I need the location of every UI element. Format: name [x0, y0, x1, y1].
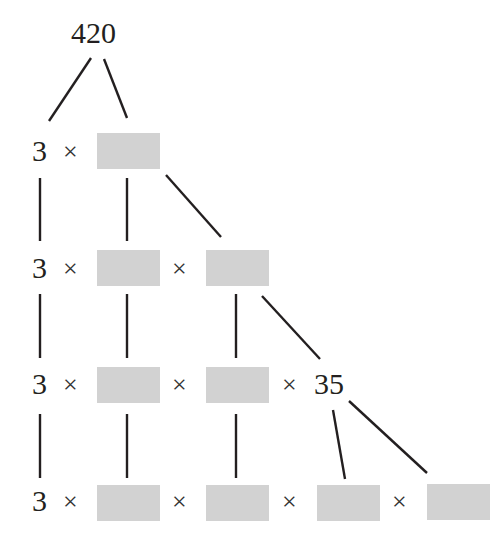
times-sign: ×	[63, 139, 78, 165]
root-number: 420	[71, 18, 116, 48]
branch-420-right	[104, 59, 127, 118]
branch-r1-box-right	[166, 175, 221, 237]
blank-answer-box[interactable]	[97, 485, 160, 521]
times-sign: ×	[172, 489, 187, 515]
factor-tree-diagram: 420 3 × 3 × × 3 × × × 35 3 × × × ×	[0, 0, 504, 546]
branch-35-left	[333, 410, 345, 479]
times-sign: ×	[282, 372, 297, 398]
times-sign: ×	[63, 372, 78, 398]
blank-answer-box[interactable]	[317, 485, 380, 521]
times-sign: ×	[392, 489, 407, 515]
factor-3: 3	[32, 136, 47, 166]
blank-answer-box[interactable]	[97, 367, 160, 403]
blank-answer-box[interactable]	[97, 133, 160, 169]
times-sign: ×	[282, 489, 297, 515]
branch-420-left	[49, 58, 91, 121]
intermediate-35: 35	[314, 369, 344, 399]
blank-answer-box[interactable]	[206, 250, 269, 286]
blank-answer-box[interactable]	[97, 250, 160, 286]
branch-35-right	[349, 401, 427, 473]
factor-3: 3	[32, 486, 47, 516]
times-sign: ×	[63, 489, 78, 515]
times-sign: ×	[172, 256, 187, 282]
blank-answer-box[interactable]	[206, 367, 269, 403]
blank-answer-box[interactable]	[206, 485, 269, 521]
branch-r2-box2-right	[262, 296, 320, 359]
blank-answer-box[interactable]	[427, 484, 490, 520]
factor-3: 3	[32, 369, 47, 399]
times-sign: ×	[63, 256, 78, 282]
times-sign: ×	[172, 372, 187, 398]
factor-3: 3	[32, 253, 47, 283]
